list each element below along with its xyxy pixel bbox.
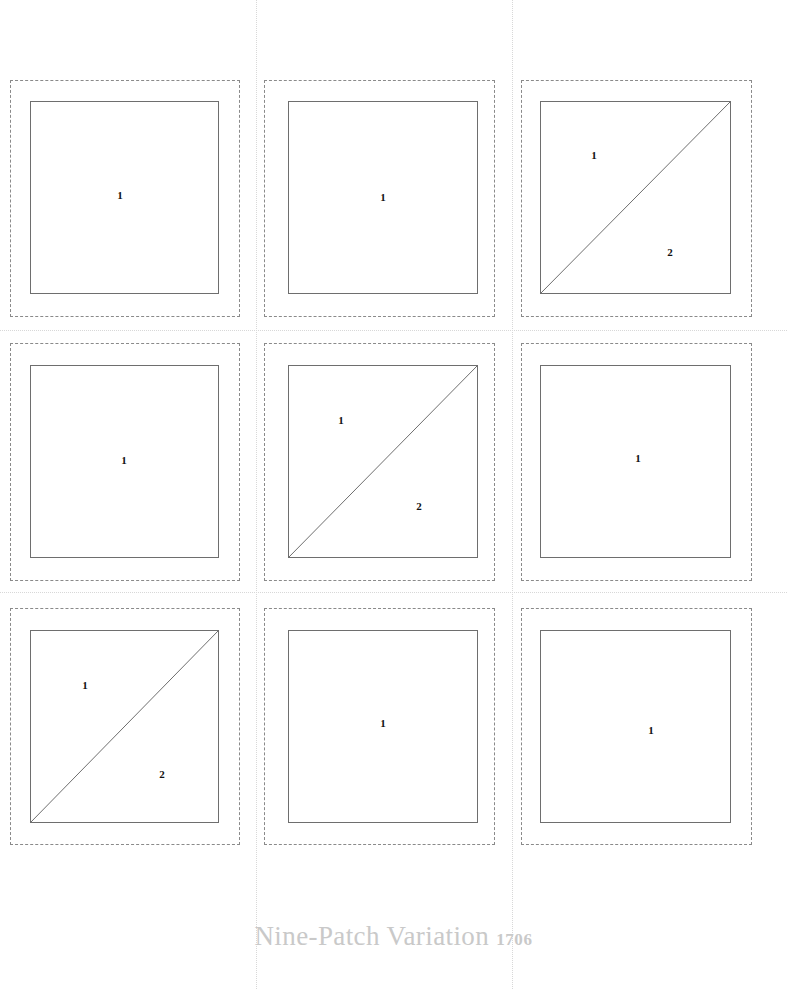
piece-label-1: 1 <box>648 725 654 736</box>
block-r3c3: 1 <box>521 608 752 845</box>
horizontal-guide-1 <box>0 330 787 331</box>
horizontal-guide-2 <box>0 592 787 593</box>
piece-label-2: 2 <box>159 769 165 780</box>
vertical-guide-1 <box>256 0 257 989</box>
block-r3c1: 12 <box>10 608 240 845</box>
diagonal-seam-line <box>30 630 219 823</box>
block-r1c1: 1 <box>10 80 240 317</box>
pattern-sheet: 111211211211 Nine-Patch Variation1706 <box>0 0 787 989</box>
block-r2c1: 1 <box>10 343 240 581</box>
piece-label-2: 2 <box>667 247 673 258</box>
piece-label-1: 1 <box>82 680 88 691</box>
vertical-guide-2 <box>512 0 513 989</box>
cutting-line-square <box>30 101 219 294</box>
piece-label-1: 1 <box>117 190 123 201</box>
piece-label-1: 1 <box>591 150 597 161</box>
block-r3c2: 1 <box>264 608 495 845</box>
piece-label-1: 1 <box>121 455 127 466</box>
pattern-number: 1706 <box>496 930 532 949</box>
block-r2c3: 1 <box>521 343 752 581</box>
block-r2c2: 12 <box>264 343 495 581</box>
piece-label-1: 1 <box>380 718 386 729</box>
piece-label-1: 1 <box>635 453 641 464</box>
pattern-footer: Nine-Patch Variation1706 <box>0 921 787 952</box>
diagonal-seam-line <box>288 365 478 558</box>
piece-label-1: 1 <box>380 192 386 203</box>
piece-label-1: 1 <box>338 415 344 426</box>
piece-label-2: 2 <box>416 501 422 512</box>
cutting-line-square <box>540 630 731 823</box>
pattern-title: Nine-Patch Variation <box>254 921 489 951</box>
block-r1c3: 12 <box>521 80 752 317</box>
block-r1c2: 1 <box>264 80 495 317</box>
diagonal-seam-line <box>540 101 731 294</box>
